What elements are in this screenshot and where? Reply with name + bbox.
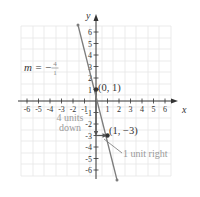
y-tick-label: 5 <box>88 40 92 49</box>
y-tick-label: -1 <box>85 109 92 118</box>
x-axis-label: x <box>181 104 187 115</box>
y-tick-label: -4 <box>85 143 92 152</box>
point-label-0-1: (0, 1) <box>98 82 121 94</box>
coordinate-graph: -6 -5 -4 -3 -2 -1 1 2 3 4 5 6 6 5 4 3 2 … <box>0 0 200 197</box>
y-tick-label: 6 <box>88 28 92 37</box>
x-tick-label: -4 <box>47 105 54 114</box>
y-axis-label: y <box>85 10 91 21</box>
y-tick-label: 1 <box>88 86 92 95</box>
x-tick-label: -6 <box>24 105 31 114</box>
x-tick-label: 2 <box>117 105 121 114</box>
y-tick-label: -3 <box>85 132 92 141</box>
x-tick-label: 1 <box>106 105 110 114</box>
x-tick-label: 5 <box>152 105 156 114</box>
x-tick-label: 6 <box>163 105 167 114</box>
slope-label: m = − 4 1 <box>24 60 59 77</box>
x-tick-label: 3 <box>129 105 133 114</box>
graph-line <box>77 24 119 182</box>
y-tick-label: -2 <box>85 120 92 129</box>
y-tick-label: -5 <box>85 155 92 164</box>
point-label-1-neg3: (1, −3) <box>109 125 138 137</box>
y-tick-label: -6 <box>85 166 92 175</box>
slope-prefix: m = − <box>24 61 52 73</box>
x-tick-label: 4 <box>140 105 144 114</box>
slope-numerator: 4 <box>53 60 57 68</box>
rise-annotation-line2: down <box>59 122 81 133</box>
run-annotation: 1 unit right <box>123 148 168 159</box>
y-tick-label: 4 <box>88 51 92 60</box>
x-tick-label: -5 <box>35 105 42 114</box>
slope-denominator: 1 <box>53 69 57 77</box>
